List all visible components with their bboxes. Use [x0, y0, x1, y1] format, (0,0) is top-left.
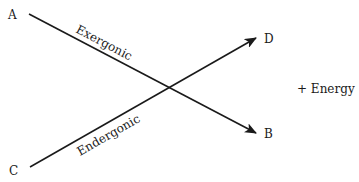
node-c-label: C	[9, 164, 18, 178]
node-a-label: A	[7, 8, 17, 22]
endergonic-arrow	[30, 38, 256, 167]
exergonic-arrow	[29, 14, 256, 133]
energy-label: + Energy	[297, 82, 355, 96]
node-b-label: B	[264, 127, 273, 141]
coupled-reactions-diagram: A B C D Exergonic Endergonic + Energy	[0, 0, 359, 182]
node-d-label: D	[264, 32, 274, 46]
